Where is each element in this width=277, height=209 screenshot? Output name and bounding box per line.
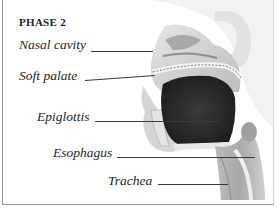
- label-epiglottis: Epiglottis: [37, 109, 90, 125]
- label-esophagus: Esophagus: [53, 145, 112, 161]
- phase-title: PHASE 2: [19, 16, 66, 28]
- leader-line-esophagus: [117, 157, 255, 158]
- label-trachea: Trachea: [108, 173, 152, 189]
- label-nasal-cavity: Nasal cavity: [19, 37, 86, 53]
- label-soft-palate: Soft palate: [19, 68, 77, 84]
- diagram-frame: PHASE 2 Nasal cavity Soft palate Epiglot…: [2, 0, 274, 205]
- leader-line-trachea: [158, 184, 228, 185]
- leader-line-epiglottis: [95, 121, 220, 122]
- leader-line-nasal-cavity: [91, 51, 153, 52]
